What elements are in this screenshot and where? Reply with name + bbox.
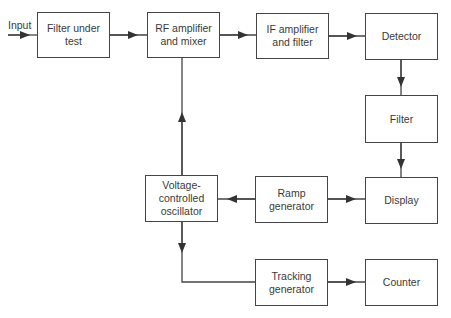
block-rf-amplifier-mixer: RF amplifier and mixer — [147, 12, 220, 58]
block-counter: Counter — [365, 259, 438, 306]
block-if-amplifier-filter: IF amplifier and filter — [256, 13, 329, 59]
block-filter: Filter — [365, 95, 438, 143]
block-detector: Detector — [365, 13, 438, 60]
block-voltage-controlled-oscillator: Voltage- controlled oscillator — [145, 175, 218, 222]
block-tracking-generator: Tracking generator — [255, 259, 328, 306]
input-label: Input — [8, 19, 31, 31]
block-display: Display — [365, 177, 438, 224]
block-ramp-generator: Ramp generator — [255, 176, 328, 223]
block-filter-under-test: Filter under test — [37, 12, 110, 58]
